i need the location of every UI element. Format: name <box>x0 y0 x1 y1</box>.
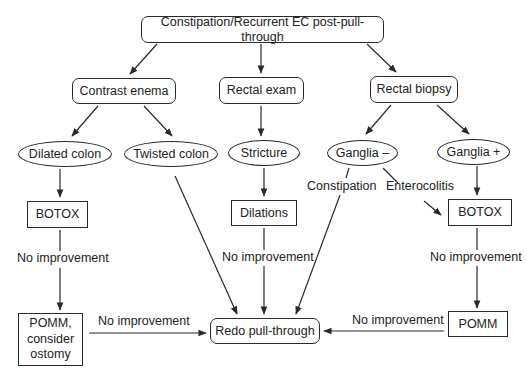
arrow-biopsy-to-ganglia-pos <box>437 105 469 134</box>
node-root: Constipation/Recurrent EC post-pull-thro… <box>141 16 384 43</box>
node-ganglia-positive-label: Ganglia + <box>447 145 501 160</box>
arrow-biopsy-to-ganglia-neg <box>366 105 391 134</box>
node-dilations: Dilations <box>231 200 297 226</box>
node-twisted-colon: Twisted colon <box>124 141 218 167</box>
arrow-root-to-contrast-enema <box>130 44 157 74</box>
edge-label-no-improvement-left: No improvement <box>17 251 109 265</box>
line-ganglia-neg-constipation-upper <box>346 168 349 178</box>
node-stricture: Stricture <box>228 140 300 166</box>
edge-label-no-improvement-bottom-right: No improvement <box>352 313 444 327</box>
node-pomm-right-label: POMM <box>459 317 498 332</box>
arrow-contrast-to-dilated <box>72 106 98 136</box>
arrow-root-to-rectal-biopsy <box>367 44 396 72</box>
node-root-label: Constipation/Recurrent EC post-pull-thro… <box>142 15 383 45</box>
node-redo-label: Redo pull-through <box>215 324 314 339</box>
node-pomm-ostomy-line-1: POMM, <box>29 316 71 332</box>
node-contrast-enema: Contrast enema <box>72 78 176 104</box>
node-rectal-biopsy-label: Rectal biopsy <box>376 82 451 97</box>
node-pomm-consider-ostomy: POMM, consider ostomy <box>18 313 83 366</box>
node-dilations-label: Dilations <box>240 206 288 221</box>
edge-label-no-improvement-right: No improvement <box>430 250 522 264</box>
node-ganglia-positive: Ganglia + <box>437 139 510 165</box>
node-botox-left-label: BOTOX <box>36 207 80 222</box>
node-pomm-ostomy-line-3: ostomy <box>30 347 70 363</box>
node-rectal-biopsy: Rectal biopsy <box>370 76 458 103</box>
arrow-enterocolitis-to-botox <box>424 201 441 215</box>
flowchart-canvas: Constipation/Recurrent EC post-pull-thro… <box>0 0 527 377</box>
edge-label-no-improvement-middle: No improvement <box>222 250 314 264</box>
node-stricture-label: Stricture <box>241 146 288 161</box>
node-contrast-enema-label: Contrast enema <box>80 84 169 99</box>
node-rectal-exam: Rectal exam <box>219 77 304 104</box>
node-pomm-ostomy-line-2: consider <box>27 332 74 348</box>
node-twisted-colon-label: Twisted colon <box>133 147 209 162</box>
node-dilated-colon-label: Dilated colon <box>29 147 101 162</box>
node-ganglia-negative-label: Ganglia – <box>336 146 390 161</box>
node-redo-pull-through: Redo pull-through <box>210 318 320 344</box>
node-rectal-exam-label: Rectal exam <box>227 83 296 98</box>
edge-label-no-improvement-bottom-left: No improvement <box>98 314 190 328</box>
node-dilated-colon: Dilated colon <box>18 141 112 167</box>
node-botox-left: BOTOX <box>27 201 88 228</box>
node-botox-right-label: BOTOX <box>458 205 502 220</box>
node-pomm-right: POMM <box>448 311 508 337</box>
node-ganglia-negative: Ganglia – <box>327 140 398 166</box>
edge-label-enterocolitis: Enterocolitis <box>386 179 454 193</box>
edge-label-constipation: Constipation <box>307 179 377 193</box>
arrow-contrast-to-twisted <box>144 106 172 136</box>
node-botox-right: BOTOX <box>448 199 512 226</box>
arrow-twisted-to-redo <box>175 176 237 314</box>
